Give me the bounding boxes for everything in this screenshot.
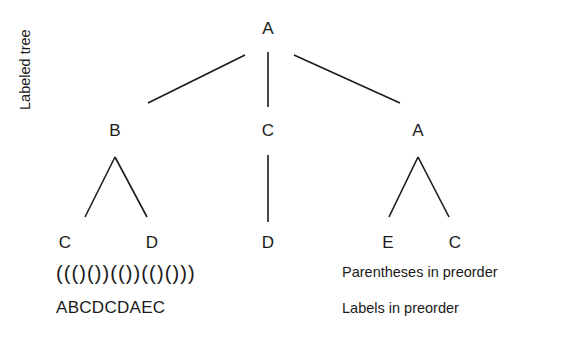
- tree-edge: [294, 55, 400, 103]
- tree-edge: [389, 157, 418, 217]
- labeled-tree-figure: Labeled tree ABCACDDEC ((()())(())(()())…: [0, 0, 576, 348]
- tree-node: D: [141, 234, 163, 251]
- tree-node: D: [257, 234, 279, 251]
- tree-node: A: [257, 20, 279, 37]
- tree-node: C: [54, 234, 76, 251]
- tree-edge: [418, 157, 449, 217]
- tree-edge: [115, 157, 147, 217]
- tree-node: E: [377, 234, 399, 251]
- tree-edges: [0, 0, 576, 348]
- tree-edge: [148, 55, 245, 103]
- vertical-axis-caption: Labeled tree: [17, 29, 33, 110]
- labels-caption: Labels in preorder: [342, 300, 459, 316]
- parentheses-sequence: ((()())(())(()())): [56, 262, 196, 285]
- tree-node: B: [104, 122, 126, 139]
- tree-edge: [85, 157, 115, 217]
- tree-node: C: [444, 234, 466, 251]
- parentheses-caption: Parentheses in preorder: [342, 264, 498, 280]
- tree-node: C: [257, 122, 279, 139]
- labels-sequence: ABCDCDAEC: [56, 298, 165, 318]
- tree-node: A: [407, 122, 429, 139]
